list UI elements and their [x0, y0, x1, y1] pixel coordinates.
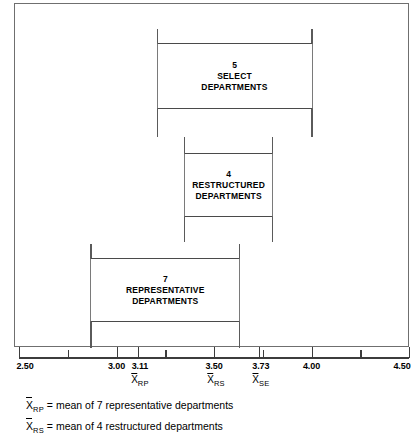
mean-marker-rp: XRP	[131, 374, 149, 388]
axis-tick-mean	[259, 347, 260, 358]
group-count-restructured: 4	[226, 169, 231, 180]
axis-tick-label: 3.50	[205, 361, 222, 371]
axis-tick-major	[214, 347, 215, 358]
axis-tick-minor	[360, 350, 361, 358]
range-group-select-departments: 5 SELECT DEPARTMENTS	[157, 29, 313, 137]
axis-tick-label: 3.00	[108, 361, 125, 371]
group-count-select: 5	[232, 60, 237, 71]
axis-tick-label: 3.73	[252, 361, 269, 371]
axis-tick-mean	[138, 347, 139, 358]
axis-tick-major	[117, 347, 118, 358]
axis-tick-minor	[165, 350, 166, 358]
group-label-line1-select: SELECT	[217, 71, 252, 82]
x-axis: 2.503.003.504.004.503.113.73 XRPXRSXSE	[0, 347, 419, 395]
range-box-restructured: 4 RESTRUCTURED DEPARTMENTS	[184, 153, 274, 217]
range-box-select: 5 SELECT DEPARTMENTS	[157, 43, 313, 109]
range-group-representative-departments: 7 REPRESENTATIVE DEPARTMENTS	[90, 244, 240, 348]
group-label-line2-restructured: DEPARTMENTS	[196, 191, 262, 202]
mean-marker-se: XSE	[252, 374, 269, 388]
group-label-line1-restructured: RESTRUCTURED	[192, 180, 265, 191]
legend-row: XRP= mean of 7 representative department…	[26, 398, 416, 417]
axis-tick-major	[312, 347, 313, 358]
axis-tick-major	[19, 347, 20, 358]
axis-tick-label: 4.00	[303, 361, 320, 371]
group-label-line1-representative: REPRESENTATIVE	[126, 285, 205, 296]
axis-tick-label: 4.50	[393, 361, 410, 371]
axis-tick-minor	[263, 350, 264, 358]
chart-legend: XRP= mean of 7 representative department…	[26, 398, 416, 437]
axis-tick-label: 3.11	[132, 361, 149, 371]
axis-tick-minor	[68, 350, 69, 358]
axis-tick-major	[409, 347, 410, 358]
range-group-restructured-departments: 4 RESTRUCTURED DEPARTMENTS	[184, 137, 274, 242]
group-label-line2-representative: DEPARTMENTS	[132, 296, 198, 307]
mean-marker-rs: XRS	[207, 374, 225, 388]
group-count-representative: 7	[163, 274, 168, 285]
range-box-representative: 7 REPRESENTATIVE DEPARTMENTS	[90, 258, 240, 322]
axis-tick-label: 2.50	[16, 361, 33, 371]
legend-row: XRS= mean of 4 restructured departments	[26, 419, 416, 437]
group-label-line2-select: DEPARTMENTS	[201, 82, 267, 93]
chart-plot-frame: 5 SELECT DEPARTMENTS 4 RESTRUCTURED DEPA…	[14, 3, 409, 347]
